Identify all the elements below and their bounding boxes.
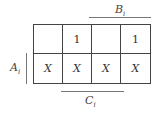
cell-r0-c3: 1	[121, 25, 150, 54]
cell-r1-c3: X	[121, 54, 150, 83]
cell-r1-c0: X	[34, 54, 63, 83]
c-span-bar	[61, 91, 124, 92]
cell-r0-c1: 1	[63, 25, 92, 54]
b-label: Bi	[115, 3, 125, 18]
a-label: Ai	[10, 61, 20, 76]
a-span-brace	[26, 53, 27, 84]
cell-r1-c1: X	[63, 54, 92, 83]
c-label: Ci	[85, 94, 96, 109]
cell-r1-c2: X	[92, 54, 121, 83]
cell-r0-c2	[92, 25, 121, 54]
karnaugh-map: 1 1 X X X X	[33, 24, 151, 84]
cell-r0-c0	[34, 25, 63, 54]
